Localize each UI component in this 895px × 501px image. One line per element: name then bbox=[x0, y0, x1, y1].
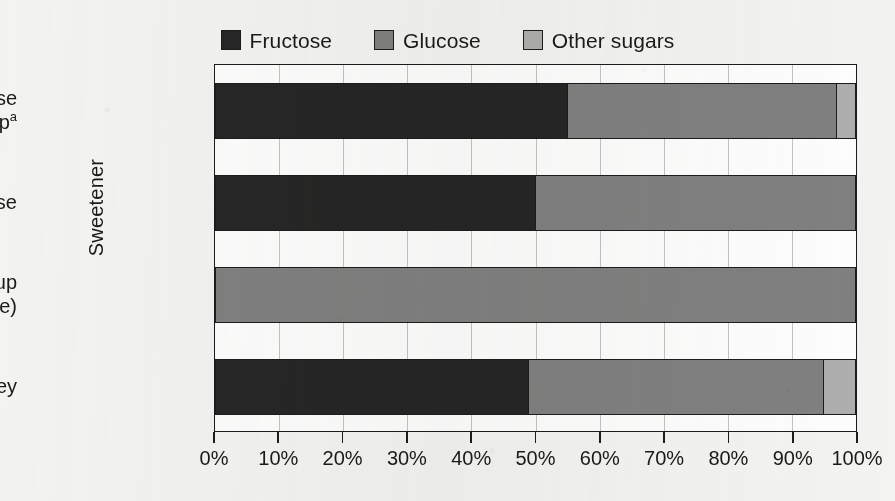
legend-swatch-other-sugars bbox=[523, 30, 543, 50]
x-axis-tick bbox=[277, 432, 279, 443]
legend-label-other-sugars: Other sugars bbox=[552, 30, 675, 51]
chart-legend: Fructose Glucose Other sugars bbox=[0, 26, 895, 54]
bar-segment-other-sugars bbox=[824, 359, 856, 415]
legend-label-glucose: Glucose bbox=[403, 30, 481, 51]
x-axis-tick bbox=[535, 432, 537, 443]
legend-item-fructose: Fructose bbox=[221, 30, 333, 51]
x-axis-tick bbox=[792, 432, 794, 443]
x-axis-ticks bbox=[214, 432, 857, 444]
bar-segment-glucose bbox=[215, 267, 856, 323]
sweetener-composition-chart: Fructose Glucose Other sugars Sweetener … bbox=[0, 0, 895, 501]
bar-segment-fructose bbox=[215, 175, 536, 231]
x-axis-tick-label: 100% bbox=[817, 446, 895, 470]
y-axis-label-high-fructose-corn-syrup: High-fructosecorn syrupa bbox=[0, 86, 17, 134]
bar-row bbox=[215, 83, 856, 139]
bar-segment-other-sugars bbox=[837, 83, 856, 139]
bar-segment-fructose bbox=[215, 83, 568, 139]
legend-item-other-sugars: Other sugars bbox=[523, 30, 675, 51]
x-axis-tick bbox=[342, 432, 344, 443]
legend-swatch-glucose bbox=[374, 30, 394, 50]
x-axis-tick bbox=[599, 432, 601, 443]
x-axis-tick bbox=[663, 432, 665, 443]
bar-row bbox=[215, 267, 856, 323]
bars-layer bbox=[215, 65, 856, 431]
bar-segment-glucose bbox=[529, 359, 824, 415]
y-axis-label-corn-syrup-regular-type: Corn syrup(regular type) bbox=[0, 270, 17, 318]
legend-item-glucose: Glucose bbox=[374, 30, 481, 51]
bar-row bbox=[215, 359, 856, 415]
x-axis-tick bbox=[728, 432, 730, 443]
x-axis-tick bbox=[213, 432, 215, 443]
x-axis-tick bbox=[406, 432, 408, 443]
bar-segment-glucose bbox=[536, 175, 857, 231]
y-axis-label-sucrose: Sucrose bbox=[0, 190, 17, 214]
bar-segment-glucose bbox=[568, 83, 837, 139]
x-axis-tick bbox=[856, 432, 858, 443]
bar-segment-fructose bbox=[215, 359, 529, 415]
legend-label-fructose: Fructose bbox=[250, 30, 333, 51]
y-axis-title: Sweetener bbox=[85, 108, 108, 308]
bar-row bbox=[215, 175, 856, 231]
x-axis-tick-labels: 0%10%20%30%40%50%60%70%80%90%100% bbox=[0, 446, 895, 476]
plot-area bbox=[214, 64, 857, 432]
legend-swatch-fructose bbox=[221, 30, 241, 50]
y-axis-label-honey: Honey bbox=[0, 374, 17, 398]
x-axis-tick bbox=[470, 432, 472, 443]
